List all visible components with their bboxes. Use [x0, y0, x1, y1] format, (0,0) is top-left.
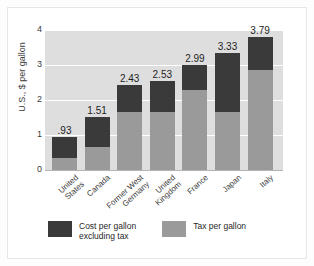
chart-legend: Cost per gallon excluding taxTax per gal… [48, 221, 246, 241]
y-tick-label: 4 [2, 24, 42, 34]
bar-group[interactable]: 3.33 [215, 30, 240, 170]
bar-segment-cost[interactable] [52, 137, 77, 158]
bar-segment-tax[interactable] [182, 90, 207, 171]
bar-group[interactable]: 2.43 [117, 30, 142, 170]
bar-segment-cost[interactable] [248, 37, 273, 70]
plot-area: .931.512.432.532.993.333.79 [45, 30, 283, 170]
y-tick-label: 1 [2, 129, 42, 139]
bar-value-label: 2.53 [153, 69, 172, 80]
legend-label: Tax per gallon [193, 221, 246, 232]
bar-group[interactable]: 1.51 [85, 30, 110, 170]
bar-segment-tax[interactable] [117, 112, 142, 170]
legend-swatch [48, 221, 72, 237]
bar-value-label: .93 [58, 125, 72, 136]
x-axis-line [45, 170, 283, 171]
y-tick-label: 0 [2, 164, 42, 174]
bar-segment-tax[interactable] [85, 147, 110, 170]
bar-segment-tax[interactable] [150, 112, 175, 170]
bar-segment-cost[interactable] [85, 117, 110, 147]
bar-segment-tax[interactable] [52, 158, 77, 170]
bar-value-label: 2.99 [185, 53, 204, 64]
bar-value-label: 3.33 [218, 41, 237, 52]
bar-group[interactable]: 3.79 [248, 30, 273, 170]
bar-value-label: 3.79 [250, 25, 269, 36]
legend-entry[interactable]: Tax per gallon [162, 221, 246, 237]
legend-entry[interactable]: Cost per gallon excluding tax [48, 221, 136, 241]
legend-label: Cost per gallon excluding tax [79, 221, 136, 241]
bar-value-label: 2.43 [120, 73, 139, 84]
bar-group[interactable]: 2.53 [150, 30, 175, 170]
y-tick-label: 3 [2, 59, 42, 69]
bar-segment-tax[interactable] [215, 112, 240, 170]
bar-segment-cost[interactable] [182, 65, 207, 89]
bar-segment-cost[interactable] [117, 85, 142, 112]
bar-value-label: 1.51 [87, 105, 106, 116]
legend-swatch [162, 221, 186, 237]
chart-figure: U.S., $ per gallon 01234 .931.512.432.53… [0, 0, 314, 266]
bar-segment-tax[interactable] [248, 70, 273, 170]
bar-group[interactable]: 2.99 [182, 30, 207, 170]
bar-segment-cost[interactable] [150, 81, 175, 111]
bar-group[interactable]: .93 [52, 30, 77, 170]
bar-segment-cost[interactable] [215, 53, 240, 111]
y-tick-label: 2 [2, 94, 42, 104]
